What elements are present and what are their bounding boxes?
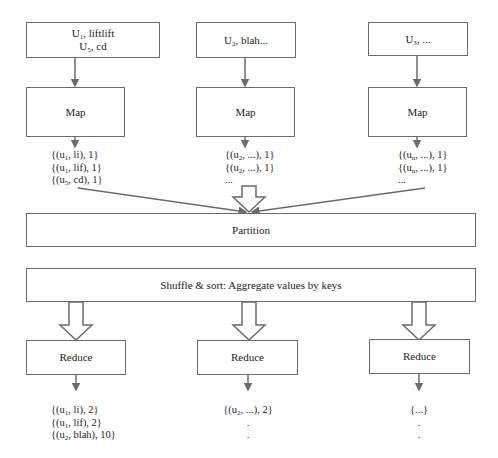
hollow-arrow-to-partition [233,186,265,212]
input-2-line-1: U2, blah... [224,34,268,47]
map-output-3: {(un, ...), 1} {(un, ...), 1} ... [398,149,447,187]
input-1-line-2: U5, cd [79,40,106,53]
input-box-2: U2, blah... [196,22,296,58]
reduce-output-1: {(u1, li), 2} {(u1, lif), 2} {(u2, blah)… [51,404,116,442]
reduce-box-2: Reduce [197,340,298,375]
partition-box: Partition [26,213,476,247]
reduce-box-1: Reduce [26,340,126,375]
reduce-output-3: {...} . . [369,404,469,442]
map-box-3: Map [368,87,467,137]
hollow-arrow-to-reduce2 [233,302,265,340]
shuffle-sort-box: Shuffle & sort: Aggregate values by keys [26,268,476,302]
input-box-1: U1, liftlift U5, cd [26,22,160,58]
map-output-1: {(u1, li), 1} {(u1, lif), 1} {(u5, cd), … [51,149,103,187]
hollow-arrow-to-reduce3 [403,302,435,340]
reduce-output-2: {(u2, ...), 2} . . [198,404,298,442]
map-output-2: {(u2, ...), 1} {(u2, ...), 1} ... [225,149,274,187]
map-box-1: Map [26,87,125,137]
input-1-line-1: U1, liftlift [72,27,115,40]
input-3-line-1: U3, ... [405,33,430,46]
input-box-3: U3, ... [368,22,468,56]
hollow-arrow-to-reduce1 [60,302,92,340]
map-box-2: Map [196,87,295,137]
reduce-box-3: Reduce [369,339,470,374]
